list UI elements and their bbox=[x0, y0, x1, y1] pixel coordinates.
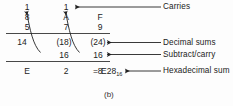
cell-addend2-col1: 5 bbox=[16, 22, 38, 32]
result-base-subscript: 16 bbox=[116, 71, 122, 77]
cell-subtract-carry-col2: 16 bbox=[50, 50, 78, 60]
figure-caption: (b) bbox=[104, 90, 114, 99]
cell-decimal-sum-col2: (18) bbox=[50, 37, 78, 47]
cell-hex-sum-col2: 2 bbox=[55, 66, 77, 76]
result-equals-sign: = bbox=[93, 66, 98, 76]
cell-decimal-sum-col3: (24) bbox=[84, 37, 112, 47]
cell-addend1-col3: F bbox=[89, 12, 111, 22]
result-digits: E28 bbox=[101, 66, 116, 76]
cell-addend2-col2: 7 bbox=[55, 22, 77, 32]
cell-hex-sum-col1: E bbox=[16, 66, 38, 76]
cell-carries-col1: 1 bbox=[16, 2, 38, 12]
label-decimal-sums: Decimal sums bbox=[163, 38, 216, 48]
cell-addend2-col3: 9 bbox=[89, 22, 111, 32]
cell-carries-col2: 1 bbox=[55, 2, 77, 12]
hex-addition-figure: 1 1 8 A F 5 7 9 14 (18) (24) 16 16 E 2 8… bbox=[0, 0, 233, 106]
label-subtract-carry: Subtract/carry bbox=[163, 50, 215, 60]
label-carries: Carries bbox=[163, 2, 190, 12]
cell-decimal-sum-col1: 14 bbox=[10, 37, 34, 47]
result-hex-value: E2816 bbox=[101, 66, 122, 77]
cell-addend1-col2: A bbox=[55, 12, 77, 22]
label-hexadecimal-sum: Hexadecimal sum bbox=[163, 66, 230, 76]
cell-subtract-carry-col3: 16 bbox=[84, 50, 112, 60]
cell-addend1-col1: 8 bbox=[16, 12, 38, 22]
